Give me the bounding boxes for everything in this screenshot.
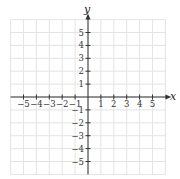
y-tick-label: −1 [71,105,84,115]
x-tick-label: −3 [43,99,56,109]
y-tick-label: −3 [71,131,84,141]
y-tick-label: −2 [71,118,84,128]
x-tick-label: −5 [17,99,30,109]
x-tick-label: −4 [30,99,43,109]
coordinate-plane: −5−4−3−2−112345−5−4−3−2−112345 x y [0,0,180,179]
x-tick-label: 2 [111,99,116,109]
x-tick-label: 5 [150,99,155,109]
y-tick-label: −5 [71,157,84,167]
x-tick-label: 4 [137,99,142,109]
y-tick-label: −4 [71,144,84,154]
y-axis-label: y [83,3,91,16]
y-tick-label: 5 [79,28,84,38]
x-tick-label: 1 [98,99,103,109]
axes [11,14,172,175]
x-axis-label: x [170,90,177,103]
x-tick-label: 3 [124,99,129,109]
y-tick-label: 1 [79,79,84,89]
y-tick-label: 4 [79,40,84,50]
y-tick-label: 3 [79,53,84,63]
y-tick-label: 2 [79,66,84,76]
x-tick-label: −2 [56,99,69,109]
